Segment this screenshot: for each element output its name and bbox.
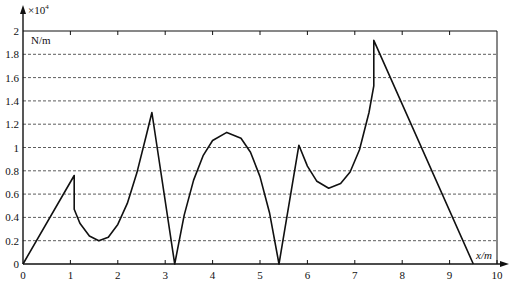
data-line bbox=[23, 40, 473, 264]
x-axis-ticks: 012345678910 bbox=[20, 31, 503, 281]
y-tick-label: 0.2 bbox=[5, 235, 19, 247]
x-tick-label: 10 bbox=[492, 269, 504, 281]
y-axis-label: N/m bbox=[31, 34, 51, 46]
y-tick-label: 1.6 bbox=[5, 72, 19, 84]
y-tick-label: 1 bbox=[14, 142, 20, 154]
y-tick-label: 2 bbox=[14, 25, 20, 37]
x-tick-label: 7 bbox=[352, 269, 358, 281]
y-tick-label: 0.4 bbox=[5, 211, 19, 223]
x-tick-label: 6 bbox=[305, 269, 311, 281]
grid-lines bbox=[23, 54, 497, 240]
x-tick-label: 2 bbox=[115, 269, 121, 281]
y-multiplier-label: ×104 bbox=[28, 3, 49, 16]
x-tick-label: 9 bbox=[447, 269, 453, 281]
y-tick-label: 1.2 bbox=[5, 118, 19, 130]
y-tick-label: 1.8 bbox=[5, 48, 19, 60]
y-tick-label: 0 bbox=[14, 258, 20, 270]
x-tick-label: 8 bbox=[399, 269, 405, 281]
x-tick-label: 0 bbox=[20, 269, 26, 281]
plot-frame bbox=[20, 5, 509, 267]
y-tick-label: 0.8 bbox=[5, 165, 19, 177]
x-axis-label: x/m bbox=[475, 249, 492, 261]
line-chart: 00.20.40.60.811.21.41.61.82 012345678910… bbox=[0, 0, 513, 292]
y-axis-ticks: 00.20.40.60.811.21.41.61.82 bbox=[5, 25, 19, 270]
y-tick-label: 0.6 bbox=[5, 188, 19, 200]
x-tick-label: 1 bbox=[68, 269, 74, 281]
x-tick-label: 4 bbox=[210, 269, 216, 281]
y-tick-label: 1.4 bbox=[5, 95, 19, 107]
x-tick-label: 5 bbox=[257, 269, 263, 281]
x-tick-label: 3 bbox=[162, 269, 168, 281]
